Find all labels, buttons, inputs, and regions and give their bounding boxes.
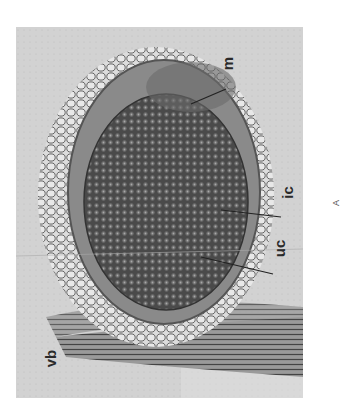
nodule-illustration xyxy=(16,27,303,398)
label-meristem: m xyxy=(219,57,236,70)
label-infected-cells: ic xyxy=(279,186,296,199)
panel-label: A xyxy=(331,200,341,206)
micrograph xyxy=(16,27,303,398)
label-vascular-bundle: vb xyxy=(42,350,59,368)
label-uninfected-cells: uc xyxy=(271,240,288,258)
